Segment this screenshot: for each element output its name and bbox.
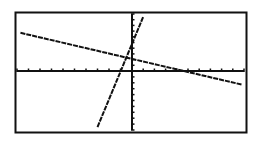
calculator-graph: [0, 0, 260, 141]
axes: [17, 14, 244, 130]
